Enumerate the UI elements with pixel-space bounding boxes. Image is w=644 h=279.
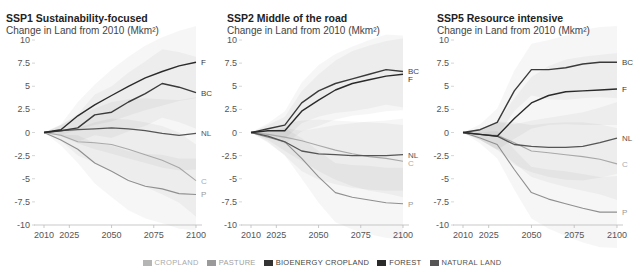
series-end-label: BC (622, 58, 633, 67)
y-tick-label: 5 (232, 81, 237, 91)
series-end-label: P (408, 200, 413, 209)
y-tick-label: 0 (232, 128, 237, 138)
series-end-label: BC (201, 89, 212, 98)
legend-label: CROPLAND (155, 258, 199, 267)
series-end-label: F (622, 85, 627, 94)
charts-svg: 107.552.50-2.5-5-7.5-1020102025205020752… (0, 0, 644, 279)
legend-label: BIOENERGY CROPLAND (276, 258, 370, 267)
y-tick-label: 7.5 (436, 58, 449, 68)
x-tick-label: 2050 (521, 230, 541, 240)
y-tick-label: -10 (224, 220, 237, 230)
legend-item-cropland: CROPLAND (143, 258, 199, 267)
y-tick-label: 5 (444, 81, 449, 91)
y-tick-label: 2.5 (17, 104, 30, 114)
x-tick-label: 2100 (186, 230, 206, 240)
forest-swatch-icon (377, 260, 386, 266)
y-tick-label: -2.5 (221, 151, 237, 161)
legend: CROPLAND PASTURE BIOENERGY CROPLAND FORE… (0, 258, 644, 267)
series-end-label: NL (622, 134, 633, 143)
y-tick-label: -5 (441, 174, 449, 184)
y-tick-label: -10 (436, 220, 449, 230)
pasture-swatch-icon (207, 260, 216, 266)
legend-label: FOREST (389, 258, 421, 267)
series-end-label: P (201, 190, 206, 199)
x-tick-label: 2025 (266, 230, 286, 240)
y-tick-label: 2.5 (224, 104, 237, 114)
natural-land-swatch-icon (430, 260, 439, 266)
y-tick-label: 10 (227, 35, 237, 45)
series-end-label: C (201, 177, 207, 186)
y-tick-label: 7.5 (17, 58, 30, 68)
x-tick-label: 2010 (241, 230, 261, 240)
series-end-label: C (622, 160, 628, 169)
x-tick-label: 2025 (479, 230, 499, 240)
y-tick-label: -2.5 (433, 151, 449, 161)
x-tick-label: 2100 (607, 230, 627, 240)
legend-item-forest: FOREST (377, 258, 421, 267)
x-tick-label: 2100 (393, 230, 413, 240)
y-tick-label: -5 (22, 174, 30, 184)
x-tick-label: 2050 (309, 230, 329, 240)
plot-ssp5: 107.552.50-2.5-5-7.5-1020102025205020752… (433, 26, 633, 248)
legend-item-natural-land: NATURAL LAND (430, 258, 502, 267)
y-tick-label: -7.5 (14, 197, 30, 207)
series-end-label: NL (201, 129, 212, 138)
plot-ssp1: 107.552.50-2.5-5-7.5-1020102025205020752… (14, 26, 212, 240)
x-tick-label: 2010 (453, 230, 473, 240)
y-tick-label: 7.5 (224, 58, 237, 68)
x-tick-label: 2025 (59, 230, 79, 240)
y-tick-label: -7.5 (433, 197, 449, 207)
y-tick-label: -7.5 (221, 197, 237, 207)
legend-label: NATURAL LAND (442, 258, 502, 267)
y-tick-label: 0 (444, 128, 449, 138)
series-end-label: F (408, 75, 413, 84)
y-tick-label: -5 (229, 174, 237, 184)
x-tick-label: 2075 (564, 230, 584, 240)
cropland-swatch-icon (143, 260, 152, 266)
plot-ssp2: 107.552.50-2.5-5-7.5-1020102025205020752… (221, 35, 419, 241)
bioenergy-swatch-icon (264, 260, 273, 266)
y-tick-label: -10 (17, 220, 30, 230)
x-tick-label: 2050 (102, 230, 122, 240)
y-tick-label: 10 (439, 35, 449, 45)
legend-item-bioenergy-cropland: BIOENERGY CROPLAND (264, 258, 370, 267)
y-tick-label: 10 (20, 35, 30, 45)
y-tick-label: 2.5 (436, 104, 449, 114)
x-tick-label: 2075 (351, 230, 371, 240)
x-tick-label: 2010 (34, 230, 54, 240)
y-tick-label: -2.5 (14, 151, 30, 161)
legend-label: PASTURE (219, 258, 256, 267)
x-tick-label: 2075 (144, 230, 164, 240)
chart-figure: SSP1 Sustainability-focused Change in La… (0, 0, 644, 279)
series-end-label: C (408, 159, 414, 168)
series-end-label: P (622, 208, 627, 217)
y-tick-label: 0 (25, 128, 30, 138)
series-end-label: F (201, 58, 206, 67)
legend-item-pasture: PASTURE (207, 258, 256, 267)
y-tick-label: 5 (25, 81, 30, 91)
